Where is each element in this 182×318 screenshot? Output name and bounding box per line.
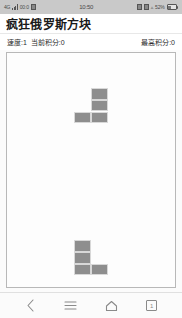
status-bar-right: ▵ 52% (137, 4, 178, 10)
status-bar-clock: 10:50 (36, 4, 137, 10)
settled-piece-block (91, 264, 108, 276)
wifi-icon: ▵ (151, 4, 153, 10)
settled-piece-block (74, 264, 91, 276)
carrier-label: 4G (4, 4, 10, 10)
chevron-left-icon (26, 299, 35, 312)
recents-button[interactable]: 1 (141, 296, 163, 316)
home-icon (105, 300, 118, 312)
phone-screen: 4G 00:0 10:50 ▵ 52% 疯狂俄罗斯方块 速度:1 当前积分:0 … (0, 0, 182, 318)
network-label: 00:0 (20, 4, 29, 10)
falling-piece-block (91, 112, 108, 124)
back-button[interactable] (19, 296, 41, 316)
battery-percent-label: 52% (155, 4, 164, 10)
bluetooth-icon (144, 4, 149, 10)
signal-bars-icon (12, 4, 18, 10)
game-board-container (0, 50, 182, 292)
game-board[interactable] (6, 52, 176, 288)
scoreboard-left: 速度:1 当前积分:0 (7, 37, 65, 47)
current-score-label: 当前积分:0 (31, 37, 65, 47)
status-bar: 4G 00:0 10:50 ▵ 52% (0, 0, 182, 14)
page-title: 疯狂俄罗斯方块 (6, 15, 91, 32)
scoreboard: 速度:1 当前积分:0 最高积分:0 (0, 34, 182, 50)
hamburger-menu-icon (64, 300, 77, 311)
falling-piece-block (91, 88, 108, 100)
alarm-icon (137, 4, 142, 10)
home-button[interactable] (100, 296, 122, 316)
battery-icon (167, 4, 179, 10)
falling-piece-block (74, 112, 91, 124)
status-bar-left: 4G 00:0 (4, 4, 36, 10)
settled-piece-block (74, 240, 91, 252)
menu-button[interactable] (60, 296, 82, 316)
falling-piece-block (91, 100, 108, 112)
high-score-label: 最高积分:0 (141, 37, 175, 47)
app-title-bar: 疯狂俄罗斯方块 (0, 14, 182, 34)
recents-icon: 1 (146, 300, 157, 311)
settled-piece-block (74, 252, 91, 264)
system-navigation-bar: 1 (0, 292, 182, 318)
recents-count: 1 (150, 303, 153, 309)
speed-label: 速度:1 (7, 37, 27, 47)
